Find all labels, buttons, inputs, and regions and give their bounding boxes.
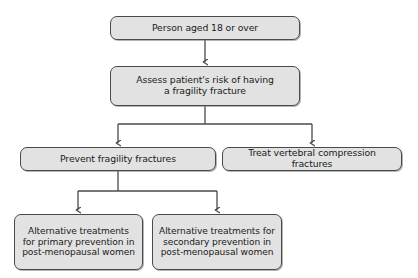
node-primary-label: Alternative treatments for primary preve… bbox=[18, 226, 139, 258]
node-alternative-treatments-primary-prevention[interactable]: Alternative treatments for primary preve… bbox=[14, 214, 143, 270]
node-secondary-line-1: Alternative treatments for bbox=[159, 226, 275, 236]
node-prevent-label: Prevent fragility fractures bbox=[56, 154, 180, 165]
node-primary-line-3: post-menopausal women bbox=[22, 247, 135, 257]
node-treat-vertebral-compression-fractures[interactable]: Treat vertebral compression fractures bbox=[222, 147, 402, 171]
node-assess-line-1: Assess patient's risk of having bbox=[136, 74, 274, 85]
node-secondary-line-2: secondary prevention in bbox=[163, 237, 271, 247]
node-prevent-fragility-fractures[interactable]: Prevent fragility fractures bbox=[20, 147, 216, 171]
node-assess-line-2: a fragility fracture bbox=[164, 85, 246, 96]
node-assess-label: Assess patient's risk of having a fragil… bbox=[132, 75, 278, 97]
node-treat-label: Treat vertebral compression fractures bbox=[223, 148, 401, 170]
node-secondary-label: Alternative treatments for secondary pre… bbox=[155, 226, 279, 258]
flowchart-diagram: Person aged 18 or over Assess patient's … bbox=[0, 0, 418, 278]
node-primary-line-2: for primary prevention in bbox=[23, 237, 135, 247]
node-secondary-line-3: post-menopausal women bbox=[161, 247, 274, 257]
node-assess-fracture-risk[interactable]: Assess patient's risk of having a fragil… bbox=[110, 66, 300, 106]
node-person-label: Person aged 18 or over bbox=[148, 23, 262, 34]
node-person-aged-18-or-over[interactable]: Person aged 18 or over bbox=[110, 16, 300, 40]
node-primary-line-1: Alternative treatments bbox=[28, 226, 129, 236]
node-alternative-treatments-secondary-prevention[interactable]: Alternative treatments for secondary pre… bbox=[152, 214, 282, 270]
